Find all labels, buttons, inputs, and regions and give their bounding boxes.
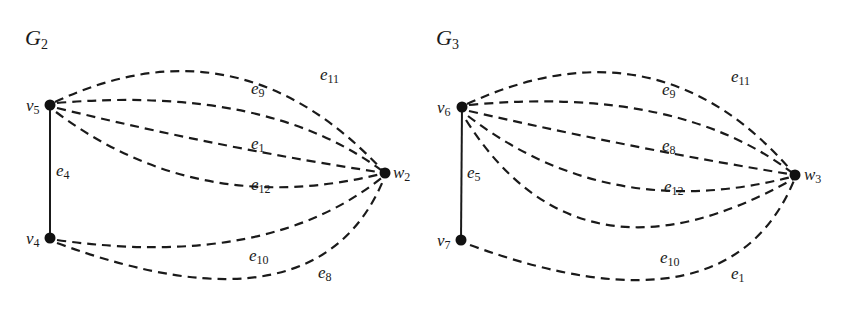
edge-label-e4-g2: e4 xyxy=(56,161,70,182)
edge-label-e5-g3: e5 xyxy=(467,163,481,184)
edge-e8-g3 xyxy=(469,111,795,175)
vertex-v7 xyxy=(456,235,467,246)
vertex-label-v4: v4 xyxy=(26,229,40,250)
edge-label-e12-g2: e12 xyxy=(251,175,271,196)
diagram-canvas: G2 v5 v4 w2 e4 e11 e9 e1 e12 e10 e8 G3 xyxy=(0,0,853,310)
edge-label-e9-g3: e9 xyxy=(662,80,676,101)
vertex-label-v7: v7 xyxy=(437,231,451,252)
vertex-v6 xyxy=(457,102,468,113)
edge-label-e11-g2: e11 xyxy=(320,65,339,86)
graph-g3: G3 v6 v7 w3 e5 e11 e9 e8 e12 e10 e1 xyxy=(436,25,821,285)
edge-label-e1-g2: e1 xyxy=(251,134,265,155)
edge-label-e8-g3: e8 xyxy=(662,136,676,157)
edge-e9-g3 xyxy=(469,101,795,175)
edge-label-e1-g3: e1 xyxy=(731,264,745,285)
edge-label-e10-g3: e10 xyxy=(660,248,680,269)
vertex-label-v5: v5 xyxy=(26,96,40,117)
edge-label-e10-g2: e10 xyxy=(249,246,269,267)
edge-e12-g2 xyxy=(56,112,385,187)
edge-e1-g2 xyxy=(57,108,385,173)
graph-g2: G2 v5 v4 w2 e4 e11 e9 e1 e12 e10 e8 xyxy=(25,25,410,284)
graph-title-g3: G3 xyxy=(436,25,459,52)
vertex-w2 xyxy=(380,168,391,179)
edge-e1-g3 xyxy=(470,178,795,280)
edge-label-e12-g3: e12 xyxy=(664,177,684,198)
edge-label-e11-g3: e11 xyxy=(731,67,750,88)
edge-e8-g2 xyxy=(57,176,385,279)
edge-e5-g3 xyxy=(461,107,462,240)
edge-e11-g2 xyxy=(55,71,385,173)
edge-e10-g3 xyxy=(466,120,795,227)
edge-label-e9-g2: e9 xyxy=(251,79,265,100)
vertex-w3 xyxy=(790,170,801,181)
vertex-label-v6: v6 xyxy=(437,98,451,119)
vertex-label-w3: w3 xyxy=(804,165,821,186)
vertex-label-w2: w2 xyxy=(393,163,410,184)
vertex-v5 xyxy=(45,100,56,111)
vertex-v4 xyxy=(45,233,56,244)
edge-e10-g2 xyxy=(57,175,385,247)
graph-title-g2: G2 xyxy=(25,25,48,52)
edge-label-e8-g2: e8 xyxy=(318,263,332,284)
edge-e9-g2 xyxy=(57,100,385,173)
